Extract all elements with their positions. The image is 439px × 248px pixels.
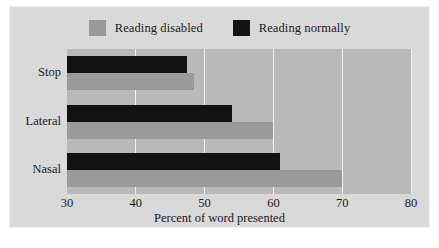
legend-entry-reading-normally[interactable]: Reading normally <box>233 20 351 36</box>
chart-figure: Reading disabled Reading normally StopLa… <box>9 6 430 228</box>
y-axis: StopLateralNasal <box>10 49 61 194</box>
x-axis-title: Percent of word presented <box>10 211 429 226</box>
x-tick-label-30: 30 <box>61 196 74 211</box>
plot-area <box>67 49 411 194</box>
gridline <box>411 49 412 194</box>
bar-stop-normally <box>67 56 187 73</box>
bar-nasal-disabled <box>67 170 342 187</box>
legend-label-reading-normally: Reading normally <box>259 21 351 36</box>
legend-swatch-reading-disabled <box>89 20 106 36</box>
bar-lateral-disabled <box>67 122 273 139</box>
x-tick-label-80: 80 <box>405 196 418 211</box>
y-tick-label-stop: Stop <box>38 65 61 80</box>
y-tick-label-lateral: Lateral <box>26 114 61 129</box>
y-tick-label-nasal: Nasal <box>33 162 61 177</box>
chart-legend: Reading disabled Reading normally <box>10 17 429 39</box>
bar-lateral-normally <box>67 105 232 122</box>
legend-swatch-reading-normally <box>233 20 250 36</box>
bar-nasal-normally <box>67 153 280 170</box>
x-tick-label-70: 70 <box>336 196 349 211</box>
x-axis: 304050607080 <box>67 196 411 212</box>
x-tick-label-60: 60 <box>267 196 280 211</box>
x-tick-label-40: 40 <box>130 196 143 211</box>
legend-entry-reading-disabled[interactable]: Reading disabled <box>89 20 203 36</box>
bar-stop-disabled <box>67 73 194 90</box>
legend-label-reading-disabled: Reading disabled <box>115 21 203 36</box>
x-tick-label-50: 50 <box>198 196 211 211</box>
